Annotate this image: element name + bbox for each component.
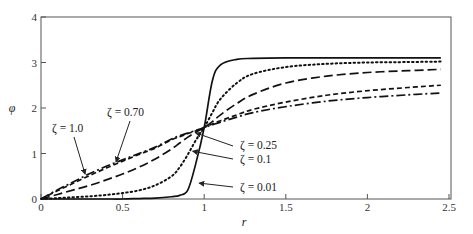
- annotation-label: ζ = 0.01: [240, 181, 277, 194]
- plot-frame: [41, 17, 451, 199]
- x-axis-label: r: [242, 215, 247, 229]
- x-tick-label: 1: [201, 201, 207, 213]
- chart-container: 00.511.522.501234 ζ = 1.0ζ = 0.70ζ = 0.2…: [0, 0, 473, 234]
- curves: [41, 58, 441, 199]
- x-tick-label: 0: [38, 201, 44, 213]
- x-tick-label: 0.5: [116, 201, 130, 213]
- x-tick-label: 1.5: [279, 201, 293, 213]
- y-tick-label: 2: [32, 102, 38, 114]
- annotation-arrow: [199, 183, 233, 187]
- curve-0_1: [41, 62, 441, 199]
- y-tick-label: 4: [32, 11, 38, 23]
- annotation-label: ζ = 0.25: [240, 139, 277, 152]
- annotation-label: ζ = 0.1: [240, 153, 272, 166]
- y-tick-label: 3: [32, 57, 38, 69]
- x-tick-label: 2.5: [442, 201, 456, 213]
- annotation-arrow: [116, 121, 130, 162]
- annotation-label: ζ = 0.70: [107, 106, 144, 119]
- annotation-arrow: [74, 137, 85, 174]
- x-tick-label: 2: [365, 201, 371, 213]
- y-tick-label: 0: [32, 193, 38, 205]
- y-axis-label: φ: [9, 101, 16, 115]
- line-chart: 00.511.522.501234 ζ = 1.0ζ = 0.70ζ = 0.2…: [0, 0, 473, 234]
- annotation-label: ζ = 1.0: [52, 122, 84, 135]
- y-tick-label: 1: [32, 148, 38, 160]
